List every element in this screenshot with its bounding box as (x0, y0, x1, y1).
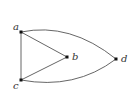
vertex-label-c: c (13, 80, 19, 91)
vertex-b (66, 56, 69, 59)
graph-diagram: a b c d (0, 0, 138, 93)
edge-a-d (21, 30, 116, 59)
edge-a-b (21, 32, 67, 57)
vertex-c (20, 79, 23, 82)
vertex-label-b: b (72, 51, 78, 62)
vertex-a (20, 31, 23, 34)
vertex-d (115, 58, 118, 61)
edge-c-d (21, 59, 116, 82)
vertex-label-d: d (121, 53, 127, 64)
edge-c-b (21, 57, 67, 80)
vertex-label-a: a (13, 21, 19, 32)
